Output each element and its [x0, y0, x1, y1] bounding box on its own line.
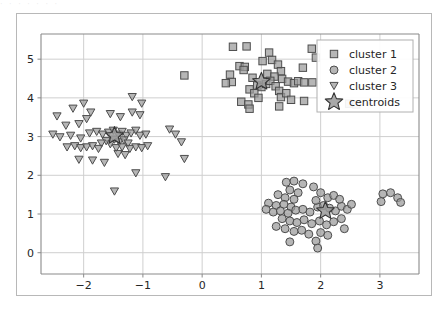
data-point: [255, 94, 262, 101]
data-point: [286, 186, 294, 194]
y-tick-label: 3: [27, 131, 34, 144]
data-point: [286, 238, 294, 246]
data-point: [397, 198, 405, 206]
data-point: [300, 79, 307, 86]
data-point: [290, 227, 298, 235]
data-point: [276, 207, 284, 215]
x-tick-label: 1: [258, 279, 265, 292]
data-point: [308, 220, 316, 228]
data-point: [340, 225, 348, 233]
data-point: [309, 79, 316, 86]
data-point: [300, 216, 308, 224]
data-point: [306, 208, 314, 216]
data-point: [229, 43, 236, 50]
data-point: [281, 225, 289, 233]
data-point: [330, 218, 338, 226]
legend-marker-circle: [330, 66, 338, 74]
data-point: [287, 96, 294, 103]
data-point: [272, 222, 280, 230]
data-point: [259, 57, 266, 64]
legend-item-label: cluster 3: [349, 80, 397, 93]
y-tick-label: 4: [27, 92, 34, 105]
y-tick-label: 2: [27, 169, 34, 182]
data-point: [337, 215, 345, 223]
x-tick-label: −1: [135, 279, 151, 292]
legend-item-label: cluster 2: [349, 64, 397, 77]
data-point: [324, 231, 332, 239]
data-point: [379, 190, 387, 198]
legend: cluster 1cluster 2cluster 3centroids: [317, 40, 413, 112]
legend-item-label: centroids: [349, 96, 400, 109]
data-point: [310, 183, 318, 191]
data-point: [275, 103, 282, 110]
legend-marker-square: [330, 50, 337, 57]
figure-canvas: · · · · · · · −2−10123012345cluster 1clu…: [0, 0, 448, 320]
data-point: [347, 200, 355, 208]
data-point: [308, 45, 315, 52]
data-point: [314, 244, 322, 252]
data-point: [265, 49, 272, 56]
data-point: [290, 177, 298, 185]
data-point: [246, 105, 253, 112]
data-point: [387, 189, 395, 197]
y-tick-label: 5: [27, 53, 34, 66]
data-point: [238, 98, 245, 105]
data-point: [299, 180, 307, 188]
data-point: [317, 189, 325, 197]
data-point: [299, 64, 306, 71]
data-point: [278, 215, 286, 223]
x-tick-label: 0: [199, 279, 206, 292]
data-point: [240, 66, 247, 73]
data-point: [290, 195, 298, 203]
legend-item-label: cluster 1: [349, 48, 397, 61]
x-tick-label: 2: [317, 279, 324, 292]
data-point: [181, 72, 188, 79]
y-tick-label: 1: [27, 208, 34, 221]
data-point: [377, 198, 385, 206]
data-point: [300, 97, 307, 104]
data-point: [222, 79, 229, 86]
x-tick-label: 3: [376, 279, 383, 292]
data-point: [312, 196, 320, 204]
y-tick-label: 0: [27, 247, 34, 260]
x-tick-label: −2: [76, 279, 92, 292]
scatter-plot: −2−10123012345cluster 1cluster 2cluster …: [0, 0, 448, 320]
data-point: [305, 230, 313, 238]
data-point: [226, 71, 233, 78]
data-point: [243, 43, 250, 50]
data-point: [336, 195, 344, 203]
data-point: [264, 70, 271, 77]
data-point: [282, 178, 290, 186]
